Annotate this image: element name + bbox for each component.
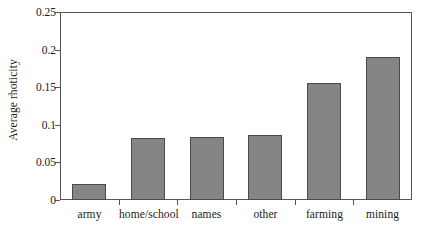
y-tick-label: 0 (0, 194, 56, 206)
x-tick-mark (295, 200, 296, 205)
y-tick-label: 0.2 (0, 44, 56, 56)
x-axis-label-mining: mining (353, 207, 412, 222)
x-tick-mark (119, 200, 120, 205)
y-tick-label: 0.15 (0, 81, 56, 93)
bar-home-school[interactable] (131, 138, 165, 200)
y-axis-title: Average rhoticity (6, 0, 20, 200)
plot-area (60, 12, 412, 200)
x-axis-label-farming: farming (295, 207, 354, 222)
y-tick-label: 0.1 (0, 119, 56, 131)
x-axis-label-other: other (236, 207, 295, 222)
y-tick-label: 0.25 (0, 6, 56, 18)
bar-farming[interactable] (307, 83, 341, 200)
bar-chart: Average rhoticity 00.050.10.150.20.25 ar… (0, 0, 430, 238)
x-axis-label-army: army (60, 207, 119, 222)
bar-names[interactable] (190, 137, 224, 200)
x-axis-label-home-school: home/school (119, 207, 178, 222)
bar-army[interactable] (72, 184, 106, 200)
x-tick-mark (177, 200, 178, 205)
x-tick-mark (236, 200, 237, 205)
y-tick-label: 0.05 (0, 156, 56, 168)
x-tick-mark (353, 200, 354, 205)
bar-mining[interactable] (366, 57, 400, 200)
x-axis-label-names: names (177, 207, 236, 222)
bar-other[interactable] (248, 135, 282, 200)
